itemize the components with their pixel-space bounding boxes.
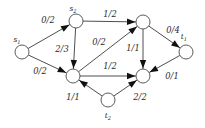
node-label-subscript: 2 [108,115,111,121]
node-label-t1: t1 [181,32,187,42]
edge-label-e11: 2/2 [133,92,146,102]
edge-label-e5: 0/2 [92,37,105,47]
edge-label-e8: 0/4 [166,25,179,35]
node-label-t2: t2 [105,111,111,121]
edge-e6 [80,73,136,79]
edge-label-e3: 1/2 [103,9,116,19]
edge-e4 [71,28,77,69]
node-a[interactable] [136,15,150,29]
edge-label-e2: 0/2 [33,66,46,76]
arrow-head [171,40,180,47]
node-label-subscript: 1 [17,39,20,45]
node-t1[interactable] [179,45,193,59]
node-b[interactable] [66,69,80,83]
arrow-head [128,80,137,87]
edge-e7 [140,29,146,69]
edge-label-e9: 0/1 [165,71,178,81]
node-t2[interactable] [101,93,115,107]
node-s1[interactable] [15,45,29,59]
arrow-head [128,27,137,35]
node-label-s2: s2 [69,4,76,14]
node-label-subscript: 1 [184,36,187,42]
flow-network-diagram: 0/20/21/22/30/21/21/10/40/11/12/2s1s2t1t… [0,0,205,128]
arrow-head [140,60,146,69]
arrow-head [127,73,136,79]
edge-label-e6: 1/2 [103,61,116,71]
edge-label-e7: 1/1 [126,43,139,53]
arrow-head [150,65,159,72]
edge-e3 [83,19,136,25]
edge-label-e1: 0/2 [41,15,54,25]
arrow-head [79,80,88,87]
node-s2[interactable] [69,14,83,28]
arrow-head [71,60,77,69]
edge-label-e4: 2/3 [55,44,68,54]
node-label-s1: s1 [13,35,20,45]
arrow-head [61,25,70,32]
edge-e10 [79,80,102,96]
edge-label-e10: 1/1 [66,92,79,102]
node-label-subscript: 2 [73,8,76,14]
arrow-head [57,66,66,73]
node-c[interactable] [136,69,150,83]
arrow-head [127,19,136,25]
edge-e9 [149,55,180,72]
